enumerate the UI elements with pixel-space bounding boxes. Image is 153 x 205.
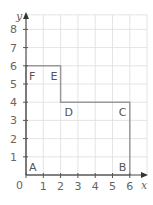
y-tick-label: 4 — [10, 96, 17, 109]
y-tick-label: 3 — [10, 114, 17, 127]
coordinate-plane: 12345612345678 x y 0 ABCDEF — [0, 0, 153, 205]
point-label-f: F — [29, 70, 35, 83]
x-tick-label: 3 — [74, 180, 81, 193]
point-label-a: A — [29, 161, 37, 174]
y-tick-label: 1 — [10, 151, 17, 164]
x-tick-label: 2 — [57, 180, 64, 193]
y-tick-label: 8 — [10, 23, 17, 36]
x-axis-label: x — [141, 179, 148, 192]
point-label-b: B — [119, 161, 127, 174]
y-axis-arrow-icon — [23, 12, 29, 19]
origin-label: 0 — [16, 179, 23, 192]
point-label-e: E — [51, 70, 58, 83]
point-label-c: C — [119, 106, 127, 119]
tick-marks — [23, 29, 130, 178]
y-axis-label: y — [15, 10, 23, 23]
grid-lines — [26, 15, 147, 175]
x-tick-label: 5 — [109, 180, 116, 193]
x-tick-label: 1 — [40, 180, 47, 193]
point-label-d: D — [65, 106, 73, 119]
y-tick-label: 5 — [10, 78, 17, 91]
y-tick-label: 6 — [10, 60, 17, 73]
x-tick-label: 6 — [126, 180, 133, 193]
y-tick-label: 2 — [10, 133, 17, 146]
y-tick-label: 7 — [10, 42, 17, 55]
x-tick-label: 4 — [92, 180, 99, 193]
